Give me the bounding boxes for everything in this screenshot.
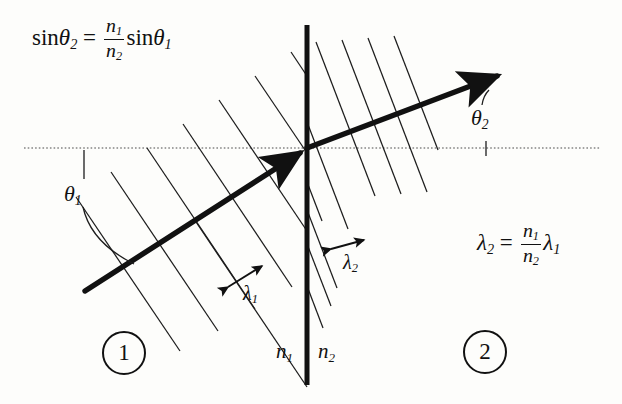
refraction-diagram-figure: sinθ2 = n1n2sinθ1 λ2 = n1n2λ1 θ1 θ2 λ1 λ… bbox=[0, 0, 622, 404]
wavefronts-region-2 bbox=[307, 36, 438, 328]
diagram-canvas bbox=[0, 0, 622, 404]
region-1-badge: 1 bbox=[102, 331, 146, 375]
refracted-ray bbox=[307, 76, 497, 148]
region-1-number: 1 bbox=[118, 340, 130, 366]
lambda2-spacing-arrow bbox=[331, 240, 364, 249]
incident-ray bbox=[85, 153, 300, 291]
theta2-leader-arc bbox=[482, 90, 489, 105]
region-2-number: 2 bbox=[479, 339, 491, 365]
region-2-badge: 2 bbox=[463, 330, 507, 374]
theta1-leader-arc bbox=[83, 207, 134, 264]
